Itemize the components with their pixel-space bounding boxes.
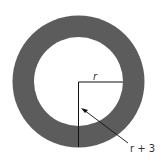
annulus-diagram: r r + 3	[0, 0, 166, 162]
outer-radius-label: r + 3	[130, 143, 155, 154]
